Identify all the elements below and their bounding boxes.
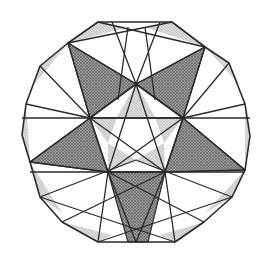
diagram-canvas <box>0 0 272 258</box>
light-facet <box>30 162 62 213</box>
light-facet <box>205 170 245 213</box>
dark-facet <box>108 172 165 242</box>
construction-line <box>26 104 90 118</box>
pentagram-polygon-diagram <box>0 0 272 258</box>
dark-facet <box>165 118 245 172</box>
construction-line <box>98 172 108 242</box>
light-facet <box>22 104 30 162</box>
light-facet <box>34 43 68 85</box>
light-facet <box>62 222 112 242</box>
construction-line <box>165 172 175 242</box>
